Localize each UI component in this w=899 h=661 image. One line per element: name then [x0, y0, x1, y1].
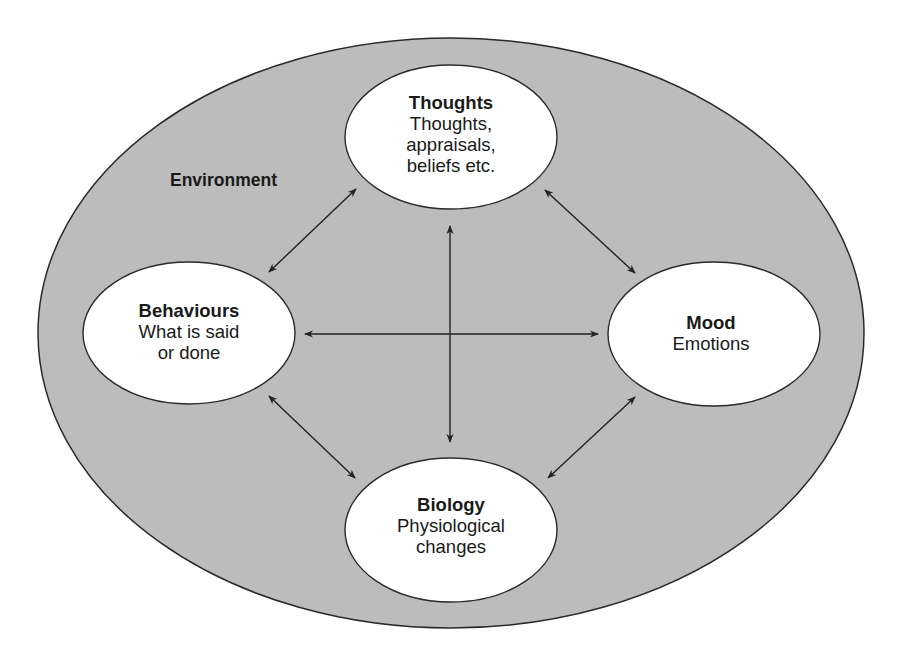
- thoughts-title: Thoughts: [351, 92, 551, 113]
- biology-line-1: Physiological: [351, 515, 551, 536]
- mood-title: Mood: [611, 312, 811, 333]
- mood-node: Mood Emotions: [611, 312, 811, 354]
- behaviours-line-2: or done: [89, 342, 289, 363]
- biology-title: Biology: [351, 494, 551, 515]
- thoughts-line-3: beliefs etc.: [351, 155, 551, 176]
- thoughts-line-1: Thoughts,: [351, 113, 551, 134]
- biology-line-2: changes: [351, 536, 551, 557]
- behaviours-node: Behaviours What is said or done: [89, 300, 289, 363]
- mood-line-1: Emotions: [611, 333, 811, 354]
- behaviours-title: Behaviours: [89, 300, 289, 321]
- thoughts-line-2: appraisals,: [351, 134, 551, 155]
- biology-node: Biology Physiological changes: [351, 494, 551, 557]
- environment-label: Environment: [170, 170, 277, 191]
- behaviours-line-1: What is said: [89, 321, 289, 342]
- thoughts-node: Thoughts Thoughts, appraisals, beliefs e…: [351, 92, 551, 176]
